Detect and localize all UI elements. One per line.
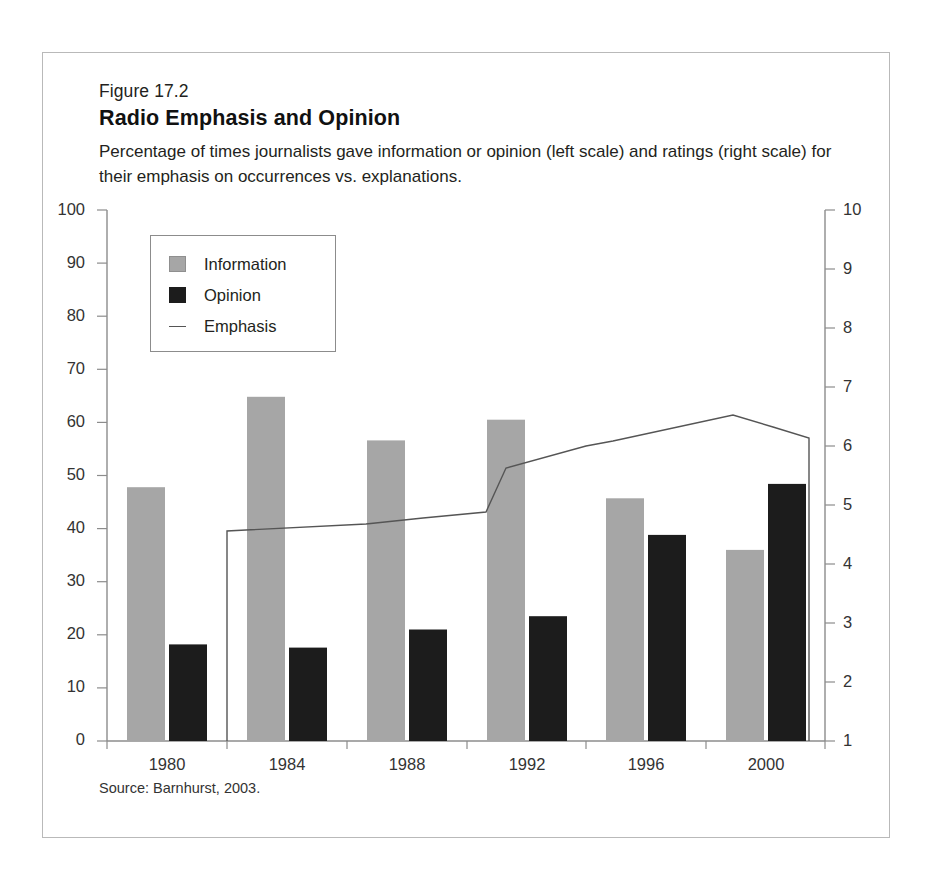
bar-opinion-1980	[169, 644, 207, 741]
x-tick-1980: 1980	[127, 755, 207, 774]
bar-information-1988	[367, 440, 405, 741]
legend-item-opinion: Opinion	[169, 282, 261, 308]
bar-information-2000	[726, 550, 764, 741]
left-tick-10: 10	[43, 677, 85, 696]
opinion-swatch-icon	[169, 287, 186, 303]
left-tick-80: 80	[43, 306, 85, 325]
left-tick-30: 30	[43, 571, 85, 590]
x-tick-2000: 2000	[726, 755, 806, 774]
x-tick-1992: 1992	[487, 755, 567, 774]
x-tick-1996: 1996	[606, 755, 686, 774]
right-tick-7: 7	[843, 377, 885, 396]
right-tick-4: 4	[843, 554, 885, 573]
right-tick-5: 5	[843, 495, 885, 514]
left-tick-0: 0	[43, 730, 85, 749]
legend-label-emphasis: Emphasis	[204, 317, 276, 336]
bar-opinion-1988	[409, 630, 447, 742]
left-tick-50: 50	[43, 465, 85, 484]
right-tick-1: 1	[843, 731, 885, 750]
right-tick-10: 10	[843, 200, 885, 219]
chart-legend: Information Opinion Emphasis	[150, 235, 336, 352]
left-tick-70: 70	[43, 359, 85, 378]
source-note: Source: Barnhurst, 2003.	[99, 780, 260, 796]
left-tick-40: 40	[43, 518, 85, 537]
bar-opinion-2000	[768, 484, 806, 741]
bar-opinion-1996	[648, 535, 686, 741]
legend-item-information: Information	[169, 251, 287, 277]
x-axis-ticks	[107, 741, 825, 749]
chart-plot-area: Information Opinion Emphasis 100 90 80 7…	[43, 53, 891, 839]
information-swatch-icon	[169, 256, 186, 272]
right-axis-ticks	[825, 210, 835, 741]
right-tick-9: 9	[843, 259, 885, 278]
legend-label-opinion: Opinion	[204, 286, 261, 305]
left-tick-90: 90	[43, 253, 85, 272]
bar-information-1984	[247, 397, 285, 741]
left-tick-100: 100	[43, 200, 85, 219]
emphasis-line-swatch-icon	[169, 318, 186, 334]
right-tick-2: 2	[843, 672, 885, 691]
chart-svg	[43, 53, 891, 839]
left-axis-ticks	[97, 210, 107, 741]
bar-information-1980	[127, 487, 165, 741]
x-tick-1988: 1988	[367, 755, 447, 774]
legend-label-information: Information	[204, 255, 287, 274]
bar-information-1996	[606, 498, 644, 741]
right-tick-3: 3	[843, 613, 885, 632]
bar-opinion-1984	[289, 648, 327, 741]
right-tick-6: 6	[843, 436, 885, 455]
left-tick-20: 20	[43, 624, 85, 643]
figure-frame: Figure 17.2 Radio Emphasis and Opinion P…	[42, 52, 890, 838]
legend-item-emphasis: Emphasis	[169, 313, 276, 339]
left-tick-60: 60	[43, 412, 85, 431]
right-tick-8: 8	[843, 318, 885, 337]
x-tick-1984: 1984	[247, 755, 327, 774]
bar-opinion-1992	[529, 616, 567, 741]
